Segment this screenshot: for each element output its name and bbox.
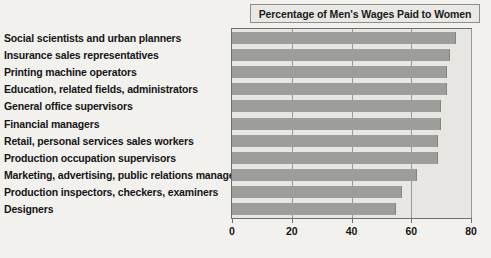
category-label: Production inspectors, checkers, examine… xyxy=(4,184,225,201)
category-label: Social scientists and urban planners xyxy=(4,29,225,46)
axis-tick-label: 20 xyxy=(286,225,298,237)
chart-title-box: Percentage of Men's Wages Paid to Women xyxy=(250,4,480,23)
axis-tick-mark xyxy=(411,219,412,223)
bar xyxy=(232,186,402,198)
axis-tick-mark xyxy=(232,219,233,223)
bar xyxy=(232,100,441,112)
category-label: General office supervisors xyxy=(4,98,225,115)
category-label: Marketing, advertising, public relations… xyxy=(4,166,225,183)
bar xyxy=(232,203,396,215)
bar xyxy=(232,118,441,130)
bar xyxy=(232,152,438,164)
axis-tick-mark xyxy=(471,219,472,223)
category-label: Insurance sales representatives xyxy=(4,46,225,63)
category-label: Retail, personal services sales workers xyxy=(4,132,225,149)
chart-figure: Percentage of Men's Wages Paid to Women … xyxy=(0,0,491,258)
gridline xyxy=(471,29,472,218)
axis-tick-label: 60 xyxy=(405,225,417,237)
category-label: Designers xyxy=(4,201,225,218)
chart-title: Percentage of Men's Wages Paid to Women xyxy=(259,8,472,20)
axis-tick-mark xyxy=(292,219,293,223)
bar xyxy=(232,32,456,44)
plot-area xyxy=(231,28,472,219)
category-axis-labels: Social scientists and urban plannersInsu… xyxy=(0,29,228,219)
category-label: Education, related fields, administrator… xyxy=(4,81,225,98)
bar xyxy=(232,49,450,61)
bar xyxy=(232,135,438,147)
category-label: Financial managers xyxy=(4,115,225,132)
axis-tick-label: 40 xyxy=(346,225,358,237)
axis-tick-mark xyxy=(352,219,353,223)
axis-tick-label: 0 xyxy=(229,225,235,237)
category-label: Printing machine operators xyxy=(4,63,225,80)
bar xyxy=(232,66,447,78)
axis-tick-label: 80 xyxy=(465,225,477,237)
bar xyxy=(232,169,417,181)
category-label: Production occupation supervisors xyxy=(4,149,225,166)
bar xyxy=(232,83,447,95)
x-axis: 020406080 xyxy=(231,219,472,258)
